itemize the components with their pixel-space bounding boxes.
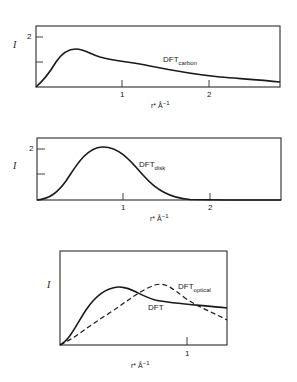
x-tick-label: 1 xyxy=(121,204,125,212)
plot-frame xyxy=(60,251,227,345)
panel-carbon xyxy=(36,26,280,87)
y-tick-label: 2 xyxy=(29,145,33,153)
curve-dft-optical xyxy=(60,284,227,345)
curve-dft-carbon xyxy=(36,49,280,87)
x-axis-label: r* Å−1 xyxy=(150,213,169,222)
y-tick-label: 2 xyxy=(27,33,31,41)
x-tick-label: 1 xyxy=(120,91,124,99)
y-axis-label: I xyxy=(47,280,50,290)
x-tick-label: 2 xyxy=(208,204,212,212)
x-tick-label: 1 xyxy=(185,350,189,358)
series-label-dft-disk: DFTdisk xyxy=(139,160,165,171)
series-label-dft-optical: DFToptical xyxy=(178,282,211,293)
series-label-dft-carbon: DFTcarbon xyxy=(163,55,197,66)
x-axis-label: r* Å−1 xyxy=(151,100,170,109)
x-tick-label: 2 xyxy=(207,91,211,99)
y-axis-label: I xyxy=(13,161,16,171)
series-label-dft: DFT xyxy=(148,303,164,312)
plot-frame xyxy=(36,26,280,87)
figure-canvas xyxy=(0,0,297,382)
x-axis-label: r* Å−1 xyxy=(131,360,150,369)
curve-dft xyxy=(60,287,227,345)
curve-dft-disk xyxy=(37,147,281,200)
panel-comparison xyxy=(60,251,227,345)
y-axis-label: I xyxy=(13,40,16,50)
